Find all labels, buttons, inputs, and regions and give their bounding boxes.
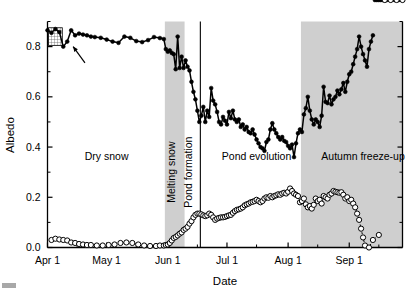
data-point-filled-circle [328,94,332,98]
data-point-filled-circle [249,131,253,135]
data-point-filled-circle [221,115,225,119]
data-point-filled-circle [310,118,314,122]
data-point-open-circle [355,211,360,216]
data-point-filled-circle [172,52,176,56]
data-point-filled-circle [351,62,355,66]
data-point-open-circle [388,0,393,3]
data-point-filled-circle [302,113,306,117]
data-point-filled-circle [205,109,209,113]
x-tick-label: Aug 1 [274,254,302,266]
x-tick-label: Jun 1 [155,254,181,266]
region-label-melting-snow: Melting snow [165,141,177,203]
data-point-filled-circle [343,90,347,94]
data-point-filled-circle [312,123,316,127]
data-point-open-circle [394,0,399,3]
data-point-filled-circle [253,133,257,137]
data-point-filled-circle [257,141,261,145]
data-point-open-circle [382,0,387,3]
data-point-filled-circle [209,86,213,90]
y-axis-title: Albedo [4,117,16,153]
data-point-open-circle [358,226,363,231]
data-point-filled-circle [65,40,69,44]
x-axis-title: Date [213,275,237,287]
data-point-filled-circle [336,89,340,93]
data-point-filled-circle [192,90,196,94]
data-point-filled-circle [105,38,109,42]
data-point-filled-circle [272,128,276,132]
y-tick-label: 0.0 [26,241,41,253]
data-point-filled-circle [361,52,365,56]
data-point-filled-circle [330,102,334,106]
x-tick-label: Sep 1 [336,254,364,266]
data-point-filled-circle [180,55,184,59]
data-point-filled-circle [89,35,93,39]
data-point-filled-circle [268,128,272,132]
data-point-open-circle [124,240,129,245]
data-point-filled-circle [199,114,203,118]
data-point-open-circle [142,243,147,248]
data-point-filled-circle [146,38,150,42]
data-point-open-circle [376,232,381,237]
data-point-filled-circle [369,40,373,44]
region-label-pond-formation: Pond formation [182,136,194,207]
data-point-filled-circle [304,106,308,110]
data-point-filled-circle [53,27,57,31]
data-point-filled-circle [322,85,326,89]
data-point-filled-circle [229,116,233,120]
data-point-filled-circle [345,80,349,84]
data-point-open-circle [319,201,324,206]
data-point-filled-circle [334,95,338,99]
region-label-dry-snow: Dry snow [85,150,129,162]
data-point-filled-circle [219,123,223,127]
data-point-filled-circle [46,28,50,32]
data-point-filled-circle [203,120,207,124]
data-point-filled-circle [241,123,245,127]
data-point-filled-circle [188,69,192,73]
data-point-filled-circle [353,55,357,59]
data-point-filled-circle [316,120,320,124]
data-point-filled-circle [123,35,127,39]
data-point-filled-circle [227,110,231,114]
data-point-filled-circle [296,131,300,135]
data-point-filled-circle [339,87,343,91]
data-point-open-circle [94,243,99,248]
x-tick-label: Jul 1 [216,254,238,266]
data-point-filled-circle [186,65,190,69]
data-point-filled-circle [306,95,310,99]
data-point-filled-circle [73,33,77,37]
data-point-filled-circle [117,41,121,45]
data-point-filled-circle [85,33,89,37]
data-point-filled-circle [326,101,330,105]
data-point-filled-circle [274,131,278,135]
data-point-open-circle [400,0,405,3]
data-point-filled-circle [223,119,227,123]
data-point-filled-circle [270,121,274,125]
data-point-filled-circle [158,36,162,40]
y-tick-label: 0.4 [26,141,41,153]
data-point-filled-circle [128,36,132,40]
data-point-filled-circle [93,35,97,39]
data-point-filled-circle [359,45,363,49]
data-point-filled-circle [57,30,61,34]
data-point-filled-circle [341,81,345,85]
data-point-filled-circle [207,115,211,119]
data-point-filled-circle [111,40,115,44]
data-point-filled-circle [81,33,85,37]
data-point-filled-circle [367,47,371,51]
data-point-filled-circle [231,109,235,113]
data-point-open-circle [100,243,105,248]
chart-canvas: 0.00.20.40.60.8Apr 1May 1Jun 1Jul 1Aug 1… [0,0,417,292]
region-label-autumn-freeze-up: Autumn freeze-up [321,150,405,162]
data-point-filled-circle [197,120,201,124]
x-tick-label: Apr 1 [35,254,60,266]
data-point-filled-circle [292,155,296,159]
data-point-open-circle [357,217,362,222]
data-point-filled-circle [245,125,249,129]
y-tick-label: 0.8 [26,40,41,52]
data-point-filled-circle [357,35,361,39]
data-point-filled-circle [371,33,375,37]
data-point-filled-circle [61,45,65,49]
data-point-filled-circle [215,110,219,114]
data-point-filled-circle [266,138,270,142]
data-point-filled-circle [162,37,166,41]
